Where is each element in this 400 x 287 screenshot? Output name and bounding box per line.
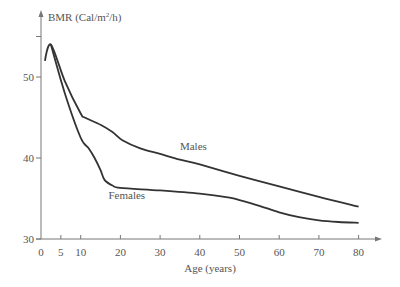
series-lines (45, 44, 359, 223)
x-axis-arrow-icon (375, 237, 382, 242)
y-ticks: 304050 (23, 37, 41, 246)
x-tick-label: 70 (313, 246, 325, 258)
y-axis-arrow-icon (39, 10, 44, 17)
x-tick-label: 60 (274, 246, 286, 258)
x-tick-label: 80 (353, 246, 365, 258)
x-tick-label: 50 (234, 246, 246, 258)
y-axis-title-tail: /h) (109, 11, 122, 24)
x-tick-label: 10 (75, 246, 87, 258)
x-tick-label: 30 (155, 246, 167, 258)
axes (36, 10, 382, 242)
bmr-age-chart: 051020304050607080 304050 MalesFemales A… (0, 0, 400, 287)
y-axis-title-main: BMR (Cal/m (48, 11, 106, 24)
x-tick-label: 5 (58, 246, 64, 258)
x-tick-label: 40 (194, 246, 206, 258)
series-label-females: Females (108, 189, 145, 201)
x-axis-title: Age (years) (184, 262, 236, 275)
y-tick-label: 30 (23, 233, 35, 245)
y-tick-label: 50 (23, 71, 35, 83)
x-tick-label: 0 (38, 246, 44, 258)
series-label-males: Males (180, 140, 207, 152)
y-tick-label: 40 (23, 152, 35, 164)
series-line-males (45, 44, 359, 206)
y-axis-title: BMR (Cal/m2/h) (48, 11, 122, 24)
x-ticks: 051020304050607080 (38, 235, 364, 258)
x-tick-label: 20 (115, 246, 127, 258)
series-labels: MalesFemales (108, 140, 206, 201)
